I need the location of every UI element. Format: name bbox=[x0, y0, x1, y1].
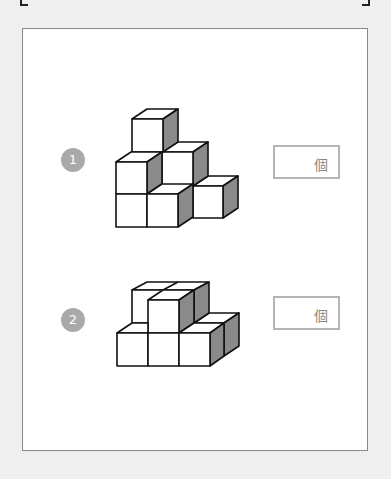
cube-figure-2 bbox=[117, 282, 239, 366]
cube-figures bbox=[0, 0, 391, 479]
cube-figure-1 bbox=[116, 109, 238, 227]
